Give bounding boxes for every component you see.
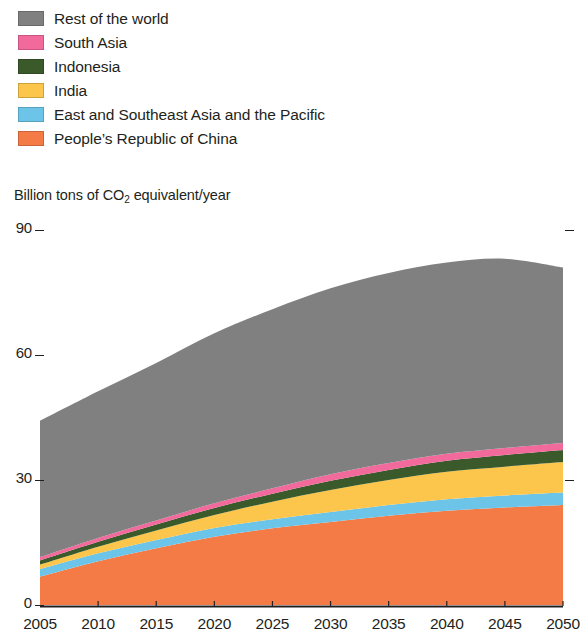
x-tick-label: 2050 bbox=[540, 615, 585, 633]
x-tick-label: 2045 bbox=[482, 615, 528, 633]
y-tick-mark bbox=[35, 605, 44, 606]
y-tick-label: 0 bbox=[2, 594, 32, 611]
x-tick-label: 2025 bbox=[249, 615, 295, 633]
y-tick-mark bbox=[35, 355, 44, 356]
x-tick-label: 2005 bbox=[17, 615, 63, 633]
y-tick-mark bbox=[35, 480, 44, 481]
y-tick-mark-right bbox=[565, 480, 574, 481]
x-tick-label: 2040 bbox=[424, 615, 470, 633]
x-tick-label: 2030 bbox=[308, 615, 354, 633]
y-tick-label: 60 bbox=[2, 344, 32, 361]
x-tick-label: 2035 bbox=[366, 615, 412, 633]
x-tick-label: 2015 bbox=[133, 615, 179, 633]
y-tick-label: 90 bbox=[2, 219, 32, 236]
x-tick-label: 2020 bbox=[191, 615, 237, 633]
y-tick-mark bbox=[35, 230, 44, 231]
y-tick-mark-right bbox=[565, 230, 574, 231]
x-tick-label: 2010 bbox=[75, 615, 121, 633]
y-tick-label: 30 bbox=[2, 469, 32, 486]
